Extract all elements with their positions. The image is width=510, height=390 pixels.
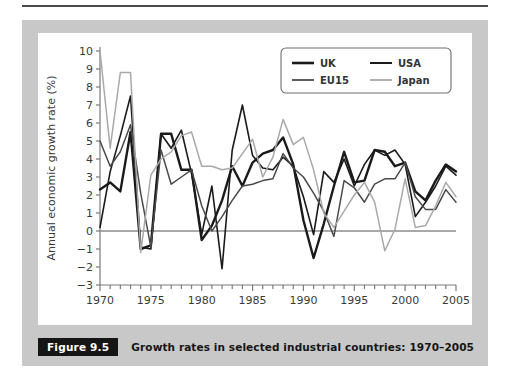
x-axis-tick-label: 2000 — [391, 294, 419, 307]
legend-label-eu15: EU15 — [320, 75, 349, 86]
line-chart: −3−2−10123456789101970197519801985199019… — [38, 33, 472, 325]
y-axis-tick-label: 6 — [86, 117, 93, 130]
x-axis-tick-label: 2005 — [442, 294, 470, 307]
chart-legend: UKUSAEU15Japan — [281, 48, 451, 93]
x-axis-tick-label: 1970 — [86, 294, 114, 307]
series-line-usa — [100, 96, 456, 269]
top-rule-divider — [22, 5, 488, 7]
x-axis-tick-label: 1975 — [137, 294, 165, 307]
x-axis-tick-label: 1980 — [188, 294, 216, 307]
y-axis-tick-label: 9 — [86, 63, 93, 76]
y-axis-tick-label: 8 — [86, 81, 93, 94]
figure-caption-text: Growth rates in selected industrial coun… — [131, 341, 474, 353]
y-axis-tick-label: −2 — [77, 261, 93, 274]
x-axis-tick-label: 1990 — [289, 294, 317, 307]
figure-root: −3−2−10123456789101970197519801985199019… — [0, 0, 510, 390]
legend-label-uk: UK — [320, 58, 337, 69]
y-axis-tick-label: 5 — [86, 135, 93, 148]
y-axis-tick-label: −1 — [77, 243, 93, 256]
legend-label-japan: Japan — [397, 75, 430, 86]
x-axis-tick-label: 1995 — [340, 294, 368, 307]
legend-label-usa: USA — [398, 58, 421, 69]
y-axis-title: Annual economic growth rate (%) — [45, 76, 58, 261]
y-axis-tick-label: 7 — [86, 99, 93, 112]
figure-caption-row: Figure 9.5 Growth rates in selected indu… — [38, 336, 472, 358]
y-axis-tick-label: 0 — [86, 225, 93, 238]
legend-border — [281, 48, 451, 93]
x-axis-tick-label: 1985 — [239, 294, 267, 307]
y-axis-tick-label: 2 — [86, 189, 93, 202]
plot-card: −3−2−10123456789101970197519801985199019… — [38, 33, 472, 325]
y-axis-tick-label: 4 — [86, 153, 93, 166]
figure-number-badge: Figure 9.5 — [38, 338, 118, 357]
y-axis-tick-label: 10 — [79, 45, 93, 58]
y-axis-tick-label: 3 — [86, 171, 93, 184]
y-axis-tick-label: 1 — [86, 207, 93, 220]
y-axis-tick-label: −3 — [77, 279, 93, 292]
